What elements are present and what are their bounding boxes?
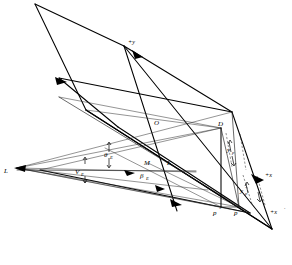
axis-lines: [59, 46, 272, 229]
label-axis-plus-y: +y: [128, 38, 135, 45]
arrowhead-beta-2: [155, 185, 165, 192]
diagram-root: L +y O D M K V E θ E β E y p: [0, 0, 292, 265]
label-axis-plus-x: +x: [265, 171, 272, 178]
arrowhead-bottom-plane: [170, 199, 182, 207]
arrowheads: [14, 50, 264, 207]
label-theta-subscript: E: [109, 155, 113, 160]
label-pdp-mark: ″: [219, 207, 221, 212]
label-beta-subscript: E: [145, 176, 149, 181]
vertical-drop-line: [221, 112, 239, 207]
label-angle-theta-e: θ E: [104, 151, 113, 160]
label-pp-base: p: [233, 209, 238, 217]
label-point-m: M: [143, 159, 151, 167]
label-yp-subscript: p: [231, 150, 235, 155]
label-angle-beta-e: β E: [139, 172, 149, 181]
label-ve-subscript: E: [80, 172, 84, 177]
label-point-d: D: [217, 120, 223, 128]
arrowhead-plus-x: [251, 174, 264, 184]
label-point-k: K: [166, 159, 172, 167]
label-origin: O: [154, 119, 159, 127]
label-axis-plus-x-prime: +x ′: [270, 207, 286, 215]
label-theta-base: θ: [104, 151, 108, 159]
label-pdp-base: p: [212, 209, 217, 217]
arrowhead-L: [14, 165, 26, 172]
label-point-p-prime: p ′: [233, 207, 242, 217]
label-beta-base: β: [139, 172, 144, 180]
label-ve-base: V: [75, 168, 80, 176]
label-axis-xprime-mark: ′: [284, 207, 286, 212]
label-light-source: L: [3, 167, 8, 175]
geometry-figure: L +y O D M K V E θ E β E y p: [0, 0, 292, 265]
label-point-p-double-prime: p ″: [212, 207, 221, 217]
label-axis-xprime-base: +x: [270, 208, 277, 215]
